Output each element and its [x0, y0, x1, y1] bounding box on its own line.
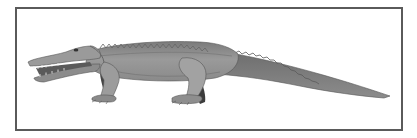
crocodylomorph-illustration [0, 0, 417, 138]
eye [74, 48, 79, 51]
head [28, 46, 104, 82]
